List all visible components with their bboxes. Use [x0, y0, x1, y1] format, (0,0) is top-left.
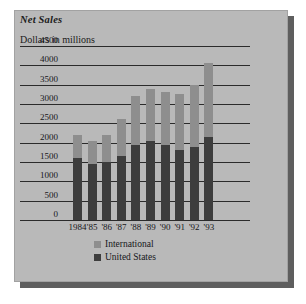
bar-group[interactable] — [161, 46, 170, 220]
bar-segment-united-states — [146, 141, 155, 220]
bar-segment-united-states — [117, 156, 126, 220]
bar-segment-international — [146, 89, 155, 141]
bar-group[interactable] — [102, 46, 111, 220]
y-axis-label: 4500 — [20, 36, 58, 45]
bar-group[interactable] — [73, 46, 82, 220]
x-axis-label: '93 — [196, 222, 221, 232]
bar-segment-international — [73, 135, 82, 158]
bar-segment-united-states — [175, 150, 184, 220]
bar-group[interactable] — [204, 46, 213, 220]
gridline — [20, 220, 250, 221]
legend-item[interactable]: United States — [94, 251, 156, 263]
bar-segment-united-states — [161, 145, 170, 220]
bar-segment-international — [190, 85, 199, 147]
bar-group[interactable] — [146, 46, 155, 220]
bar-group[interactable] — [190, 46, 199, 220]
page-title: Net Sales — [20, 14, 62, 25]
x-axis-ticks: 1984'85'86'87'88'89'90'91'92'93 — [20, 222, 250, 234]
bar-group[interactable] — [117, 46, 126, 220]
bar-segment-united-states — [102, 162, 111, 220]
bars-layer — [20, 46, 250, 220]
bar-segment-international — [131, 96, 140, 144]
bar-segment-international — [204, 63, 213, 136]
bar-segment-united-states — [190, 147, 199, 220]
bar-segment-international — [117, 119, 126, 156]
bar-segment-international — [88, 141, 97, 164]
bar-segment-international — [175, 94, 184, 150]
bar-segment-international — [102, 135, 111, 162]
legend-label: International — [105, 239, 154, 249]
chart-legend: InternationalUnited States — [94, 238, 156, 264]
bar-group[interactable] — [88, 46, 97, 220]
bar-segment-international — [161, 92, 170, 144]
bar-segment-united-states — [131, 145, 140, 220]
bar-segment-united-states — [88, 164, 97, 220]
legend-swatch-icon — [94, 254, 101, 261]
bar-group[interactable] — [175, 46, 184, 220]
plot-area: 450040003500300025002000150010005000 — [20, 46, 250, 220]
legend-swatch-icon — [94, 241, 101, 248]
legend-item[interactable]: International — [94, 238, 156, 250]
bar-segment-united-states — [73, 158, 82, 220]
legend-label: United States — [105, 252, 156, 262]
bar-group[interactable] — [131, 46, 140, 220]
bar-segment-united-states — [204, 137, 213, 220]
